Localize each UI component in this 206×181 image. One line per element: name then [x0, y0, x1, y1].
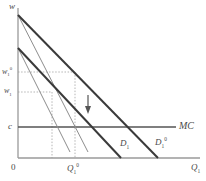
downward-shift-arrow	[85, 95, 91, 114]
demand-shifted-sub: 1	[127, 144, 130, 150]
marginal-revenue-initial-line	[18, 15, 88, 152]
figure-canvas	[0, 0, 206, 181]
shift-arrow-head	[85, 106, 91, 114]
x-axis-label-sub: 1	[198, 168, 201, 174]
demand-initial-sup: 0	[164, 136, 167, 142]
demand-initial-sub: 1	[162, 143, 165, 149]
cost-label: c	[8, 122, 12, 131]
demand-initial-line	[18, 15, 158, 158]
origin-label: 0	[11, 163, 16, 172]
marginal-revenue-shifted-line	[18, 48, 70, 152]
quantity-initial-sub: 1	[74, 169, 77, 175]
quantity-initial-sup: 0	[76, 162, 79, 168]
wage-low-sub: 1	[9, 92, 11, 97]
x-axis-label: Q1	[191, 163, 200, 174]
wage-low-label: w1	[4, 87, 12, 97]
wage-high-label: w10	[2, 67, 12, 78]
demand-shift-figure: w Q1 0 w10 w1 c Q10 D1 D10 MC	[0, 0, 206, 181]
marginal-cost-label: MC	[179, 121, 194, 131]
demand-initial-label: D10	[155, 137, 167, 149]
wage-high-sub: 1	[7, 72, 9, 77]
axes-group	[18, 8, 200, 158]
y-axis-label: w	[9, 2, 15, 11]
demand-shifted-label: D1	[120, 139, 129, 150]
wage-high-sup: 0	[10, 66, 12, 71]
quantity-initial-label: Q10	[67, 163, 79, 175]
